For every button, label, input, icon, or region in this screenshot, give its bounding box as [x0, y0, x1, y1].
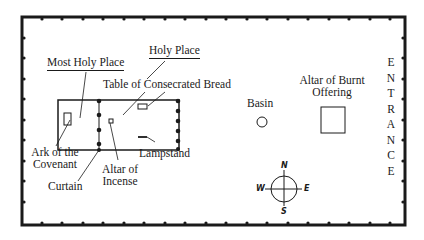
label-entrance: E N T R A N C E — [385, 55, 397, 179]
compass-north: N — [281, 161, 288, 170]
label-lampstand: Lampstand — [139, 147, 190, 159]
label-most-holy-place: Most Holy Place — [47, 56, 124, 71]
ark-of-covenant — [64, 113, 71, 125]
basin — [257, 117, 267, 127]
compass-rose — [265, 170, 302, 206]
altar-of-incense — [109, 119, 113, 123]
label-ark-of-covenant: Ark of the Covenant — [27, 146, 83, 170]
label-altar-burnt-offering: Altar of Burnt Offering — [296, 74, 368, 98]
courtyard-wall — [22, 17, 405, 225]
label-basin: Basin — [247, 97, 273, 109]
courtyard-posts — [22, 17, 404, 224]
label-holy-place: Holy Place — [149, 44, 200, 59]
label-curtain: Curtain — [48, 180, 83, 192]
table-of-bread — [138, 104, 147, 109]
label-table-of-bread: Table of Consecrated Bread — [103, 78, 231, 90]
tabernacle-tent — [58, 100, 179, 150]
compass-east: E — [304, 184, 309, 193]
compass-south: S — [281, 207, 287, 216]
tabernacle-diagram — [0, 0, 424, 240]
altar-of-burnt-offering — [321, 107, 345, 133]
label-altar-of-incense: Altar of Incense — [100, 163, 140, 187]
compass-west: W — [256, 184, 265, 193]
